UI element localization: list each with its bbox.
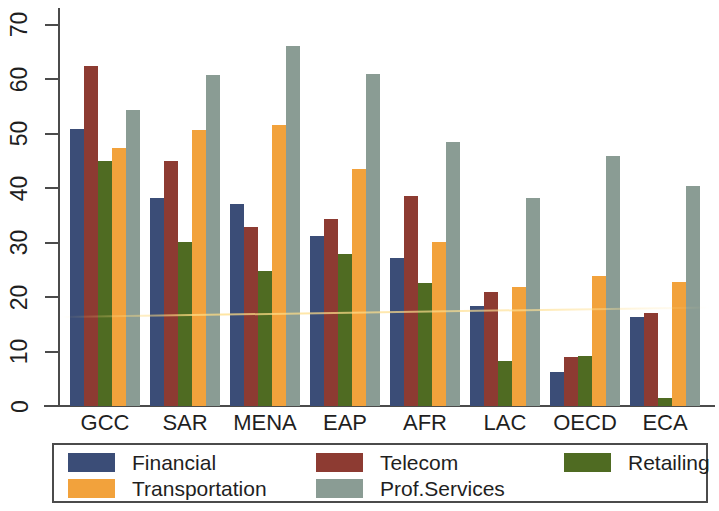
bar: [526, 198, 540, 406]
bar: [606, 156, 620, 406]
bar: [512, 287, 526, 406]
bar: [564, 357, 578, 406]
legend-swatch: [316, 479, 363, 498]
y-tick-label-text: 20: [9, 284, 32, 310]
bar: [658, 398, 672, 406]
bar: [672, 282, 686, 406]
plot-area: [60, 8, 715, 406]
legend-item: Prof.Services: [316, 475, 505, 501]
bar: [150, 198, 164, 406]
y-tick-mark: [45, 78, 58, 80]
bar-group: [310, 8, 380, 406]
y-tick-label-text: 0: [8, 400, 31, 413]
bar: [338, 254, 352, 406]
bar-group: [550, 8, 620, 406]
y-tick-mark: [45, 187, 58, 189]
bar: [446, 142, 460, 406]
bar: [70, 129, 84, 406]
bar: [484, 292, 498, 406]
legend-swatch: [564, 453, 611, 472]
bar: [310, 236, 324, 406]
chart-legend: FinancialTelecomRetailing Transportation…: [52, 443, 708, 503]
y-tick-mark: [45, 242, 58, 244]
legend-row-bottom: TransportationProf.Services: [54, 475, 706, 501]
legend-row-top: FinancialTelecomRetailing: [54, 449, 706, 475]
bar-group: [150, 8, 220, 406]
bar: [206, 75, 220, 406]
legend-item: Telecom: [316, 449, 458, 475]
bar-chart: 010203040506070 GCCSARMENAEAPAFRLACOECDE…: [0, 0, 719, 511]
y-tick-label-text: 30: [9, 230, 32, 256]
bar: [366, 74, 380, 406]
y-tick-mark: [45, 296, 58, 298]
bar: [244, 227, 258, 406]
bar: [272, 125, 286, 406]
bar: [286, 46, 300, 406]
y-tick-label-text: 50: [9, 121, 32, 147]
y-tick-mark: [45, 24, 58, 26]
legend-item: Transportation: [68, 475, 267, 501]
bar: [592, 276, 606, 406]
bar-group: [390, 8, 460, 406]
bar: [550, 372, 564, 406]
x-axis-label: ECA: [615, 412, 715, 434]
bar: [470, 306, 484, 406]
y-tick-mark: [45, 133, 58, 135]
bar: [498, 361, 512, 406]
bar: [686, 186, 700, 406]
bar: [644, 313, 658, 406]
bar: [98, 161, 112, 406]
bar-group: [70, 8, 140, 406]
y-tick-label-text: 10: [9, 339, 32, 365]
bar: [112, 148, 126, 406]
bar: [578, 356, 592, 406]
bar: [164, 161, 178, 406]
bar: [432, 242, 446, 406]
legend-item: Retailing: [564, 449, 710, 475]
legend-label: Telecom: [380, 452, 458, 473]
bar: [404, 196, 418, 406]
legend-item: Financial: [68, 449, 216, 475]
legend-label: Retailing: [628, 452, 710, 473]
bar-group: [230, 8, 300, 406]
y-tick-mark: [45, 405, 58, 407]
bar-group: [470, 8, 540, 406]
bar: [230, 204, 244, 406]
legend-label: Financial: [132, 452, 216, 473]
y-tick-label-text: 60: [9, 66, 32, 92]
bar: [178, 242, 192, 406]
legend-swatch: [68, 453, 115, 472]
bar: [192, 130, 206, 406]
bar: [352, 169, 366, 406]
legend-swatch: [316, 453, 363, 472]
bar: [324, 219, 338, 406]
bar: [630, 317, 644, 406]
bar: [258, 271, 272, 406]
legend-swatch: [68, 479, 115, 498]
y-tick-label-text: 70: [9, 12, 32, 38]
legend-label: Prof.Services: [380, 478, 505, 499]
bar-group: [630, 8, 700, 406]
bar: [418, 283, 432, 406]
bar: [390, 258, 404, 406]
bar: [84, 66, 98, 406]
y-tick-mark: [45, 351, 58, 353]
legend-label: Transportation: [132, 478, 267, 499]
bar: [126, 110, 140, 406]
y-tick-label-text: 40: [9, 175, 32, 201]
